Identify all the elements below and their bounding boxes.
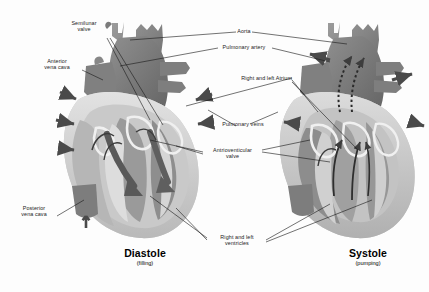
- label-semilunar-valve: Semilunar valve: [60, 20, 108, 32]
- label-posterior-vena-cava: Posterior vena cava: [10, 205, 58, 217]
- caption-systole: Systole (pumping): [323, 247, 413, 266]
- label-right-and-left-ventricles: Right and left ventricles: [209, 234, 265, 246]
- label-atrioventricular-valve: Antrioventicular valve: [205, 147, 260, 159]
- label-line: valve: [205, 153, 260, 159]
- label-pulmonary-artery: Pulmonary artery: [212, 44, 276, 50]
- diastole-heart: [56, 22, 214, 238]
- label-aorta: Aorta: [224, 28, 264, 34]
- label-anterior-vena-cava: Anterior vena cava: [33, 58, 81, 70]
- caption-subtitle: (pumping): [323, 260, 413, 266]
- systole-heart: [280, 22, 424, 238]
- label-line: valve: [60, 26, 108, 32]
- caption-title: Diastole: [100, 247, 190, 259]
- caption-title: Systole: [323, 247, 413, 259]
- label-line: Right and left Atrium: [202, 75, 292, 81]
- label-right-and-left-atrium: Right and left Atrium: [202, 75, 292, 81]
- label-line: Pulmonary artery: [212, 44, 276, 50]
- label-line: Pulmonary veins: [209, 121, 277, 127]
- label-line: Aorta: [224, 28, 264, 34]
- caption-diastole: Diastole (filling): [100, 247, 190, 266]
- heart-diagram-figure: Semilunar valve Anterior vena cava Poste…: [0, 0, 429, 292]
- label-pulmonary-veins: Pulmonary veins: [209, 121, 277, 127]
- label-line: vena cava: [10, 211, 58, 217]
- label-line: vena cava: [33, 64, 81, 70]
- label-line: ventricles: [209, 240, 265, 246]
- caption-subtitle: (filling): [100, 260, 190, 266]
